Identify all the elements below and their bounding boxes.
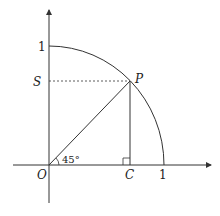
label-origin: O [37,168,47,182]
segment-op [49,81,130,165]
label-x-one: 1 [159,168,167,182]
right-angle-mark [123,158,130,165]
unit-circle-diagram: O P S C 1 1 45° [0,0,220,216]
label-p: P [134,72,144,86]
diagram-canvas: O P S C 1 1 45° [0,0,220,216]
angle-arc [56,158,59,165]
label-angle: 45° [62,154,80,165]
label-c: C [125,168,134,182]
label-s: S [33,75,41,89]
label-y-one: 1 [38,40,46,54]
